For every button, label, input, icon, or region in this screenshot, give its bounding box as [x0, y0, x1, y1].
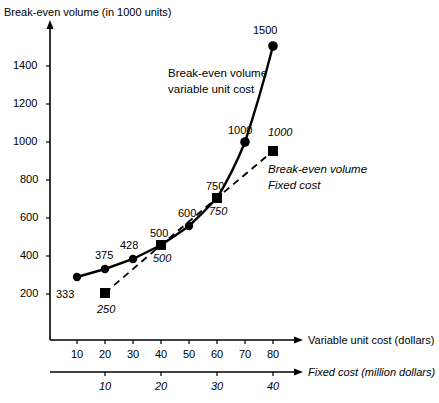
x-axis-title: Variable unit cost (dollars): [308, 334, 434, 346]
y-axis-arrow-icon: [47, 20, 54, 29]
y-tick-label-800: 800: [20, 173, 38, 185]
x-secondary-tick-label-30: 30: [211, 380, 223, 392]
x-axis-secondary-title: Fixed cost (million dollars): [308, 366, 435, 378]
x-tick-label-40: 40: [155, 348, 167, 360]
y-tick-label-1400: 1400: [13, 59, 37, 71]
x-tick-label-70: 70: [239, 348, 251, 360]
fixed-point-label-750: 750: [209, 205, 227, 217]
point-label-500: 500: [150, 227, 168, 239]
x-secondary-tick-label-20: 20: [155, 380, 167, 392]
point-label-428: 428: [120, 239, 138, 251]
y-tick-label-1000: 1000: [13, 135, 37, 147]
annotation-fixed-line2: Fixed cost: [268, 179, 320, 191]
fixed-point-label-500: 500: [153, 252, 171, 264]
point-label-750: 750: [206, 180, 224, 192]
point-label-333: 333: [56, 288, 74, 300]
x-tick-label-20: 20: [99, 348, 111, 360]
x-secondary-tick-label-10: 10: [99, 380, 111, 392]
x-tick-label-60: 60: [211, 348, 223, 360]
fixed-point-label-1000: 1000: [268, 126, 292, 138]
series-variable-unit-cost-line: [77, 46, 273, 277]
point-label-1000: 1000: [228, 124, 252, 136]
point-label-1500: 1500: [253, 24, 277, 36]
point-label-375: 375: [95, 249, 113, 261]
annotation-variable-line1: Break-even volume: [168, 67, 267, 79]
x-tick-label-10: 10: [71, 348, 83, 360]
x-axis-secondary-arrow-icon: [294, 369, 303, 376]
annotation-fixed-line1: Break-even volume: [268, 163, 367, 175]
annotation-variable-line2: variable unit cost: [168, 83, 254, 95]
x-tick-label-30: 30: [127, 348, 139, 360]
y-tick-label-200: 200: [20, 287, 38, 299]
y-tick-label-600: 600: [20, 211, 38, 223]
point-label-600: 600: [178, 207, 196, 219]
x-secondary-tick-label-40: 40: [267, 380, 279, 392]
y-tick-label-400: 400: [20, 249, 38, 261]
y-tick-label-1200: 1200: [13, 97, 37, 109]
fixed-point-label-250: 250: [97, 303, 115, 315]
chart-container: Break-even volume (in 1000 units): [0, 0, 439, 403]
x-tick-label-50: 50: [183, 348, 195, 360]
x-tick-label-80: 80: [267, 348, 279, 360]
x-axis-arrow-icon: [294, 337, 303, 344]
